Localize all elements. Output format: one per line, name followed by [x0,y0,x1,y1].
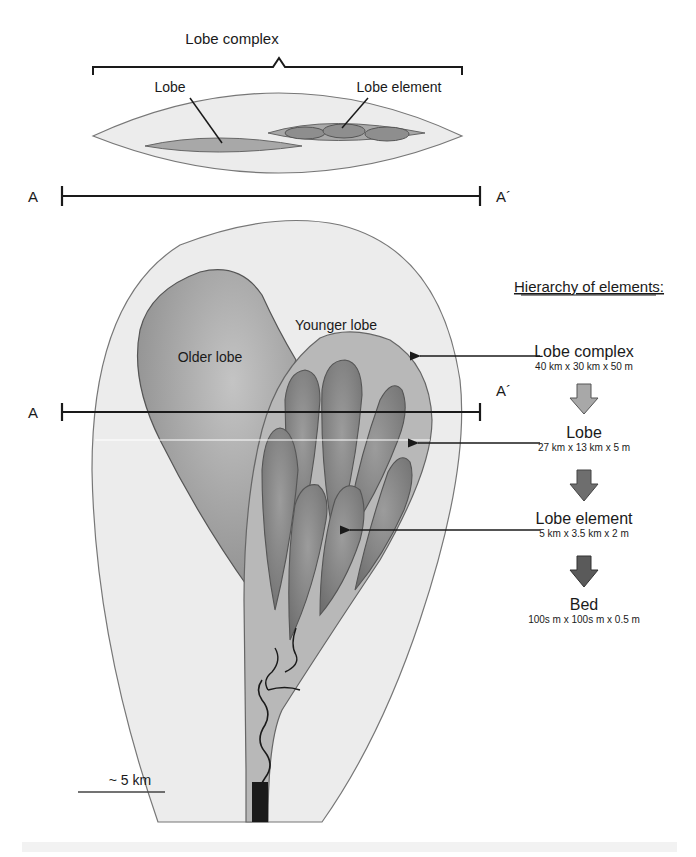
hierarchy-panel: Hierarchy of elements: Lobe complex 40 k… [514,278,664,625]
hierarchy-title: Hierarchy of elements: [514,278,664,295]
hierarchy-level-name: Bed [570,596,598,613]
older-lobe-label: Older lobe [178,349,243,365]
lobe-element-label: Lobe element [357,79,442,95]
section-line-top: A A´ [28,186,511,206]
down-arrow-icon [570,556,598,587]
lobe-complex-bracket [93,58,462,75]
lobe-element-1 [285,127,325,139]
section-label-a-prime: A´ [496,188,511,205]
hierarchy-level-dims: 40 km x 30 km x 50 m [535,361,633,372]
down-arrow-icon [570,470,598,501]
hierarchy-level-dims: 5 km x 3.5 km x 2 m [539,528,628,539]
lobe-hierarchy-diagram: Lobe complex Lobe Lobe element A A´ [0,0,696,857]
hierarchy-level-name: Lobe element [536,510,634,527]
lobe-label: Lobe [154,79,185,95]
cross-section-title: Lobe complex [185,30,279,47]
hierarchy-level-dims: 100s m x 100s m x 0.5 m [528,614,640,625]
cross-section: Lobe complex Lobe Lobe element [93,30,462,173]
down-arrow-icon [570,384,598,414]
section-label-a: A [28,188,38,205]
hierarchy-level-name: Lobe complex [534,343,634,360]
bottom-strip [22,842,677,852]
hierarchy-level-dims: 27 km x 13 km x 5 m [538,442,630,453]
hierarchy-level-name: Lobe [566,424,602,441]
feeder-channel [252,782,268,822]
scale-label: ~ 5 km [109,772,151,788]
section-label-a-2: A [28,404,38,421]
younger-lobe-label: Younger lobe [295,317,377,333]
lobe-element-3 [365,127,409,141]
plan-view: Older lobe Younger lobe ~ 5 km [78,221,462,823]
section-label-a-prime-2: A´ [496,382,511,399]
